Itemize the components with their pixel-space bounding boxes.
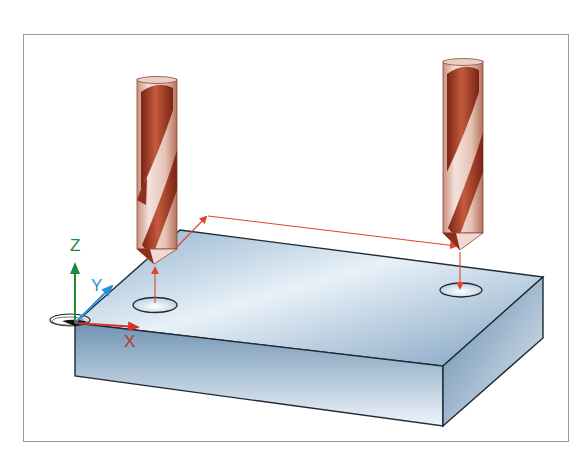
drilling-diagram: X Y Z (0, 0, 588, 455)
drill-left (137, 77, 177, 265)
workpiece-block (75, 230, 543, 426)
hole-right (440, 283, 482, 297)
drill-right (443, 59, 483, 251)
x-axis-label: X (124, 332, 135, 352)
illustration (0, 0, 588, 455)
z-axis-label: Z (70, 236, 80, 256)
y-axis-label: Y (91, 276, 102, 296)
